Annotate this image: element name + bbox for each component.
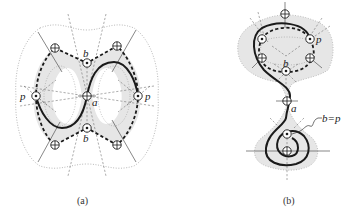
target-node-a (83, 92, 91, 100)
source-node-p-right (134, 92, 142, 100)
label-b-equals-p: b=p (322, 112, 341, 124)
label-b-bottom: b (83, 132, 89, 144)
target-node-bottom (283, 147, 291, 155)
panel-a: b b p p a (a) (16, 14, 159, 207)
label-p: p (315, 33, 322, 45)
target-node-top (281, 10, 289, 18)
caption-a: (a) (77, 195, 88, 207)
target-node-tl (51, 44, 59, 52)
source-node-upper-left (258, 35, 266, 43)
label-p-right: p (144, 90, 151, 102)
target-node-bl (51, 141, 59, 149)
figure-canvas: b b p p a (a) (0, 0, 358, 221)
target-node-right (306, 54, 314, 62)
target-node-br (113, 141, 121, 149)
source-node-b-top (83, 59, 91, 67)
caption-b: (b) (283, 195, 295, 207)
label-a: a (92, 96, 98, 108)
target-node-left (258, 54, 266, 62)
label-b-top: b (83, 47, 89, 59)
label-b: b (283, 57, 289, 69)
source-node-p (306, 35, 314, 43)
source-node-b-bottom (83, 124, 91, 132)
target-node-tr (113, 42, 121, 50)
source-node-p-left (32, 92, 40, 100)
label-a: a (291, 102, 297, 114)
source-node-bp (283, 130, 291, 138)
target-node-a (283, 97, 291, 105)
label-p-left: p (19, 90, 26, 102)
panel-b: p b a b=p (b) (238, 2, 341, 207)
